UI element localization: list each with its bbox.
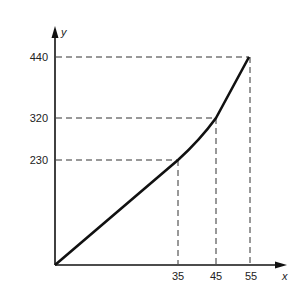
x-tick-45: 45 bbox=[210, 270, 222, 282]
y-axis-label: y bbox=[60, 26, 68, 38]
y-tick-230: 230 bbox=[30, 154, 48, 166]
x-axis-label: x bbox=[281, 270, 288, 282]
x-tick-55: 55 bbox=[245, 270, 257, 282]
x-tick-35: 35 bbox=[172, 270, 184, 282]
y-tick-320: 320 bbox=[30, 112, 48, 124]
x-axis-arrow-icon bbox=[275, 262, 287, 269]
data-curve bbox=[55, 57, 249, 265]
guide-lines bbox=[56, 57, 250, 264]
line-diagram: 440 320 230 35 45 55 x y bbox=[0, 0, 299, 299]
axes bbox=[55, 34, 280, 265]
y-tick-440: 440 bbox=[30, 51, 48, 63]
y-axis-arrow-icon bbox=[52, 26, 59, 38]
